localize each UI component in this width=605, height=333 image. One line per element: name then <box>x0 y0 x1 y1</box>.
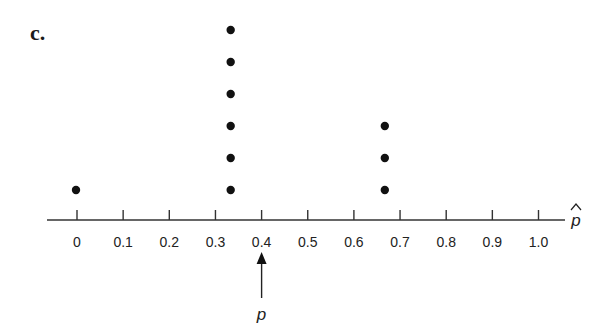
tick-label: 0.9 <box>483 234 503 250</box>
data-dot <box>226 26 234 34</box>
data-dot <box>381 154 389 162</box>
x-axis-label: p <box>570 211 580 230</box>
tick-label: 0 <box>73 234 81 250</box>
hat-icon <box>571 204 581 210</box>
data-dot <box>72 186 80 194</box>
data-dot <box>226 122 234 130</box>
parameter-label: p <box>256 305 266 324</box>
data-dot <box>226 90 234 98</box>
tick-label: 0.4 <box>252 234 272 250</box>
tick-label: 0.2 <box>160 234 180 250</box>
data-dot <box>381 186 389 194</box>
data-dot <box>226 58 234 66</box>
data-dot <box>226 186 234 194</box>
data-dot <box>226 154 234 162</box>
tick-label: 0.8 <box>436 234 456 250</box>
tick-label: 0.6 <box>344 234 364 250</box>
tick-label: 1.0 <box>529 234 549 250</box>
tick-label: 0.7 <box>390 234 410 250</box>
tick-label: 0.5 <box>298 234 318 250</box>
data-dot <box>381 122 389 130</box>
dots <box>72 26 389 194</box>
annotations: p <box>256 252 267 324</box>
tick-label: 0.3 <box>206 234 226 250</box>
tick-label: 0.1 <box>113 234 133 250</box>
x-axis: 00.10.20.30.40.50.60.70.80.91.0p <box>47 204 581 250</box>
arrow-up-icon <box>257 252 267 264</box>
dot-plot: 00.10.20.30.40.50.60.70.80.91.0p p <box>0 0 605 333</box>
